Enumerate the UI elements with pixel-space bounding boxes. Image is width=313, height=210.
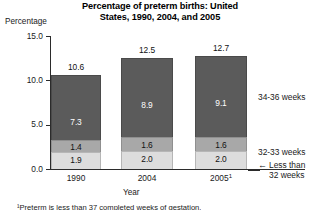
bar-segment-value-34-36-weeks-1990: 7.3	[52, 118, 100, 126]
y-axis-tick-label-10: 10.0	[27, 75, 43, 85]
chart-container: Percentage of preterm births: United Sta…	[0, 0, 313, 210]
bar-segment-value-32-33-weeks-1990: 1.4	[52, 143, 100, 151]
bar-2004[interactable]: 12.5 8.9 1.6 2.0	[121, 58, 173, 169]
series-label-32-33-weeks: 32-33 weeks	[258, 148, 306, 158]
y-axis-title: Percentage	[5, 17, 47, 26]
chart-title-line-2: States, 1990, 2004, and 2005	[100, 12, 220, 22]
series-label-less-than-32-weeks-line-1: Less than	[269, 160, 305, 170]
series-label-34-36-weeks: 34-36 weeks	[258, 93, 306, 103]
leader-line-less-than-32-weeks	[248, 170, 260, 171]
plot-area: 10.6 7.3 1.4 1.9 12.5 8.9 1.6 2.0	[50, 36, 255, 169]
x-axis-label-2005: 20051	[195, 173, 247, 183]
bar-total-label-1990: 10.6	[39, 62, 113, 72]
series-label-less-than-32-weeks-line-2: 32 weeks	[269, 170, 304, 180]
series-label-less-than-32-weeks: ← Less than32 weeks	[258, 161, 305, 180]
bar-segment-32-33-weeks-2005[interactable]: 1.6	[195, 137, 247, 151]
x-axis-label-2005-text: 2005	[210, 173, 229, 183]
bar-segment-less-than-32-weeks-2005[interactable]: 2.0	[195, 151, 247, 169]
y-axis-tick-label-15: 15.0	[27, 31, 43, 41]
bar-total-label-2004: 12.5	[109, 45, 185, 55]
bar-segment-less-than-32-weeks-1990[interactable]: 1.9	[51, 152, 101, 169]
bar-segment-34-36-weeks-1990[interactable]: 7.3	[51, 75, 101, 140]
x-axis-title: Year	[123, 188, 140, 197]
y-axis-tick-0: 0.0	[46, 169, 51, 170]
chart-footnote: ¹Preterm is less than 37 completed weeks…	[17, 203, 201, 210]
bar-segment-value-less-than-32-weeks-2004: 2.0	[122, 155, 172, 163]
y-axis-tick-label-5: 5.0	[31, 119, 43, 129]
bar-segment-34-36-weeks-2005[interactable]: 9.1	[195, 56, 247, 137]
bar-1990[interactable]: 10.6 7.3 1.4 1.9	[51, 75, 101, 169]
bar-segment-value-less-than-32-weeks-2005: 2.0	[196, 155, 246, 163]
chart-title-line-1: Percentage of preterm births: United	[82, 1, 238, 11]
bar-segment-32-33-weeks-1990[interactable]: 1.4	[51, 140, 101, 152]
bar-segment-34-36-weeks-2004[interactable]: 8.9	[121, 58, 173, 137]
bar-segment-32-33-weeks-2004[interactable]: 1.6	[121, 137, 173, 151]
bar-segment-value-less-than-32-weeks-1990: 1.9	[52, 156, 100, 164]
y-axis-tick-label-0: 0.0	[31, 164, 43, 174]
bar-segment-value-34-36-weeks-2005: 9.1	[196, 99, 246, 107]
bar-segment-value-34-36-weeks-2004: 8.9	[122, 101, 172, 109]
x-axis-label-1990: 1990	[51, 173, 101, 183]
bar-segment-value-32-33-weeks-2005: 1.6	[196, 141, 246, 149]
bar-segment-less-than-32-weeks-2004[interactable]: 2.0	[121, 151, 173, 169]
bar-2005[interactable]: 12.7 9.1 1.6 2.0	[195, 56, 247, 169]
x-axis-label-2004: 2004	[121, 173, 173, 183]
chart-title: Percentage of preterm births: United Sta…	[62, 1, 258, 24]
bar-segment-value-32-33-weeks-2004: 1.6	[122, 141, 172, 149]
bar-total-label-2005: 12.7	[183, 43, 259, 53]
x-axis-label-2005-footnote-marker: 1	[229, 173, 232, 179]
